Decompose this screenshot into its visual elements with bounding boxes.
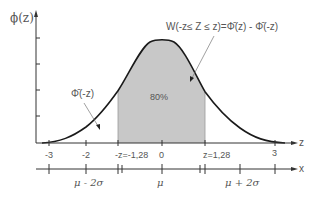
x-tick-label-mu: μ — [157, 178, 164, 188]
tail-annotation-arrow-icon — [96, 124, 100, 130]
area-annotation-leader — [192, 36, 214, 78]
y-axis-ticks — [36, 38, 40, 116]
x-axis-arrow-icon — [291, 167, 298, 171]
z-tick-label-0: 0 — [159, 151, 164, 160]
y-axis-arrow-icon — [34, 10, 38, 17]
area-probability-annotation: W(-z≤ Z ≤ z)=Φ̄(z) - Φ̄(-z) — [166, 22, 278, 32]
x-tick-label-mu-plus-2sigma: μ + 2σ — [225, 178, 259, 188]
z-tick-label-neg-z: -z=-1,28 — [115, 151, 148, 160]
x-axis-label: x — [299, 164, 304, 174]
z-axis-label: z — [299, 138, 304, 148]
z-tick-label-neg2: -2 — [82, 151, 90, 160]
z-tick-label-3: 3 — [272, 149, 277, 158]
z-axis-arrow-icon — [291, 141, 298, 145]
z-tick-label-pos-z: z=1,28 — [203, 151, 230, 160]
center-percent-label: 80% — [150, 93, 168, 102]
x-tick-label-mu-minus-2sigma: μ - 2σ — [74, 178, 103, 188]
z-tick-label-neg3: -3 — [45, 151, 53, 160]
y-axis-label: ϕ(z) — [10, 12, 34, 24]
tail-probability-annotation: Φ̄(-z) — [71, 89, 94, 99]
